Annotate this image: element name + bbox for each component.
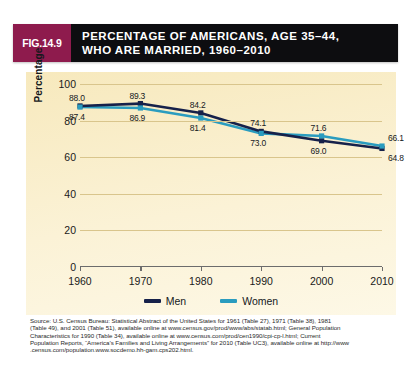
data-label: 66.1 [388, 133, 404, 143]
source-line-1: Source: U.S. Census Bureau: Statistical … [30, 317, 396, 324]
chart-series-svg [80, 84, 382, 267]
source-line-4: Population Reports, “America’s Families … [30, 339, 396, 346]
legend-label: Men [166, 295, 186, 307]
source-line-2: (Table 49), and 2001 (Table 51), availab… [30, 324, 396, 331]
x-tick-label: 1970 [120, 275, 160, 287]
chart-grid-area: 196019701980199020002010 [80, 84, 382, 267]
series-line-women [80, 107, 382, 146]
legend-item-women[interactable]: Women [220, 295, 278, 307]
data-label: 71.6 [311, 123, 327, 133]
data-point-marker [259, 131, 264, 136]
x-tick [201, 267, 202, 271]
data-label: 88.0 [69, 93, 85, 103]
y-tick-label: 60 [50, 152, 76, 162]
y-tick-label: 100 [50, 79, 76, 89]
x-tick [261, 267, 262, 271]
legend-label: Women [242, 295, 278, 307]
gridline [80, 230, 382, 231]
gridline [80, 157, 382, 158]
y-tick-label: 0 [50, 262, 76, 272]
source-note: Source: U.S. Census Bureau: Statistical … [30, 317, 396, 353]
figure-container: FIG.14.9 PERCENTAGE OF AMERICANS, AGE 35… [0, 0, 411, 375]
gridline [80, 194, 382, 195]
data-point-marker [379, 143, 384, 148]
x-tick [140, 267, 141, 271]
data-label: 86.9 [129, 113, 145, 123]
data-label: 69.0 [311, 146, 327, 156]
y-tick-label: 40 [50, 189, 76, 199]
source-line-3: Characteristics for 1990 (Table 34), ava… [30, 332, 396, 339]
figure-title-bar: FIG.14.9 PERCENTAGE OF AMERICANS, AGE 35… [13, 24, 398, 62]
data-point-marker [319, 133, 324, 138]
data-point-marker [138, 105, 143, 110]
data-label: 87.4 [69, 112, 85, 122]
data-label: 74.1 [250, 118, 266, 128]
x-tick [80, 267, 81, 271]
y-tick-label: 20 [50, 225, 76, 235]
x-tick [382, 267, 383, 271]
data-label: 81.4 [190, 123, 206, 133]
figure-title-line-2: WHO ARE MARRIED, 1960–2010 [82, 43, 398, 58]
x-tick-label: 1980 [181, 275, 221, 287]
data-point-marker [77, 104, 82, 109]
chart-panel: Percentage 020406080100 1960197019801990… [26, 72, 396, 315]
data-point-marker [319, 138, 324, 143]
source-line-5: .census.com/population.www.socdemo.hh-ga… [30, 346, 396, 353]
data-label: 64.8 [388, 153, 404, 163]
legend-swatch [220, 299, 237, 303]
figure-title-line-1: PERCENTAGE OF AMERICANS, AGE 35–44, [82, 29, 398, 44]
x-tick [322, 267, 323, 271]
x-tick-label: 2010 [362, 275, 402, 287]
gridline [80, 121, 382, 122]
data-label: 84.2 [190, 100, 206, 110]
gridline [80, 84, 382, 85]
legend-swatch [144, 299, 161, 303]
chart-legend: MenWomen [26, 295, 396, 307]
figure-title: PERCENTAGE OF AMERICANS, AGE 35–44, WHO … [71, 24, 398, 62]
data-label: 89.3 [129, 91, 145, 101]
legend-item-men[interactable]: Men [144, 295, 186, 307]
x-tick-label: 2000 [302, 275, 342, 287]
data-label: 73.0 [250, 138, 266, 148]
x-tick-label: 1990 [241, 275, 281, 287]
chart-plot-inner: Percentage 020406080100 1960197019801990… [26, 72, 396, 315]
data-point-marker [198, 110, 203, 115]
gridline [80, 267, 382, 268]
x-tick-label: 1960 [60, 275, 100, 287]
